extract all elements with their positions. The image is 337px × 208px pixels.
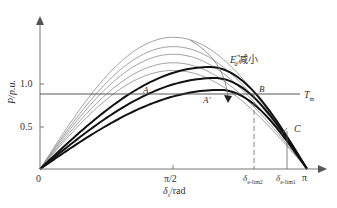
decrease-arrowhead-icon <box>224 95 232 103</box>
curve-thin-1 <box>40 37 307 169</box>
y-axis-label: P/p.u. <box>6 80 17 104</box>
point-c-label: C <box>294 124 301 134</box>
tm-subscript: m <box>310 96 315 102</box>
x-axis-arrow-icon <box>318 165 327 173</box>
x-tick-label-lim2: δe-lim2 <box>243 173 263 187</box>
x-axis-unit: /rad <box>170 185 186 196</box>
ed-decrease-label: E"d减小 <box>230 52 258 69</box>
x-tick-label-0: 0 <box>36 174 41 184</box>
curve-thick-3 <box>40 90 307 169</box>
tm-label: Tm <box>304 90 314 104</box>
x-axis-label: δs/rad <box>163 186 186 200</box>
point-b-label: B <box>259 84 265 94</box>
y-tick-label-05: 0.5 <box>20 122 33 132</box>
y-axis-arrow-icon <box>36 16 44 25</box>
x-tick-label-lim1: δe-lim1 <box>276 173 296 187</box>
point-a-label: A <box>143 85 149 95</box>
y-tick-label-1: 1.0 <box>20 79 33 89</box>
curve-thick-2 <box>40 78 307 169</box>
power-angle-curves <box>40 37 307 169</box>
lim1-subscript: e-lim1 <box>280 179 296 185</box>
chart-figure: P/p.u. 1.0 0.5 0 π/2 π δe-lim2 δe-lim1 δ… <box>0 0 337 208</box>
x-tick-label-pi2: π/2 <box>164 174 177 184</box>
ed-decrease-text: 减小 <box>238 54 258 65</box>
point-a-prime-label: A' <box>203 95 210 105</box>
lim2-subscript: e-lim2 <box>247 179 263 185</box>
x-tick-label-pi: π <box>302 173 307 183</box>
